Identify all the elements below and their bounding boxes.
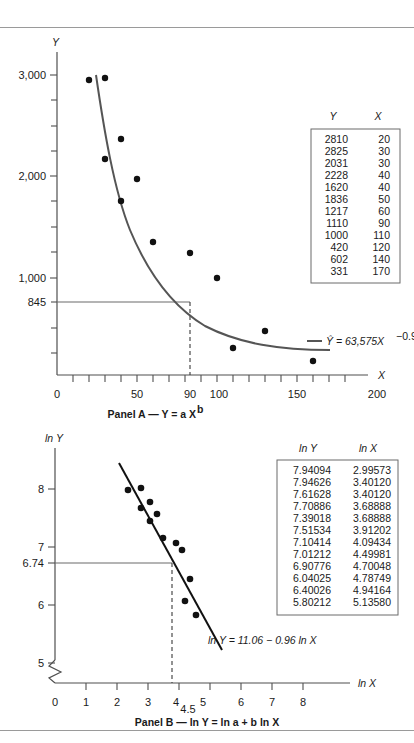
panel-b-caption-text: Panel B — ln Y = ln a + b ln X [135, 716, 279, 728]
table-cell: 420 [330, 241, 348, 253]
panel-a-ytick-3000: 3,000 [18, 69, 46, 81]
panel-a-table-col-y: 2810 2825 2031 2228 1620 1836 1217 1110 … [325, 133, 349, 277]
table-cell: 2825 [325, 145, 349, 157]
panel-b-xtick-6: 6 [238, 696, 244, 708]
panel-a-caption-exponent: b [197, 403, 203, 415]
table-cell: 6.40026 [293, 584, 331, 596]
panel-b-ytick-5: 5 [38, 657, 44, 669]
panel-a-xtick-90: 90 [184, 388, 196, 400]
panel-a-x-ticks [73, 375, 345, 382]
table-cell: 1217 [325, 205, 349, 217]
panel-b-xtick-8: 8 [300, 696, 306, 708]
panel-b-table-header-x: ln X [359, 442, 378, 454]
table-cell: 3.68888 [353, 512, 391, 524]
panel-b-xtick-45: 4.5 [180, 703, 195, 715]
panel-b-xtick-3: 3 [145, 696, 151, 708]
panel-a-equation: Ŷ = 63,575X −0.96 [307, 330, 414, 347]
table-cell: 4.94164 [353, 584, 391, 596]
panel-b-data-points [125, 485, 200, 619]
table-cell: 5.13580 [353, 596, 391, 608]
table-cell: 1836 [325, 193, 349, 205]
panel-a-table-header-y: Y [329, 110, 337, 122]
table-cell: 170 [372, 265, 390, 277]
table-cell: 7.94094 [293, 464, 331, 476]
table-cell: 4.70048 [353, 560, 391, 572]
panel-a-data-table: Y X 2810 2825 2031 2228 1620 1836 1217 1… [311, 110, 400, 283]
table-cell: 30 [378, 157, 390, 169]
table-cell: 50 [378, 193, 390, 205]
panel-a-ytick-1000: 1,000 [18, 272, 46, 284]
table-cell: 7.01212 [293, 548, 331, 560]
panel-a-fitted-curve [96, 75, 330, 350]
table-cell: 6.04025 [293, 572, 331, 584]
panel-a-x-axis-label: X [377, 369, 386, 381]
panel-b-xtick-5: 5 [200, 696, 206, 708]
panel-b-xtick-4: 4 [173, 696, 179, 708]
table-cell: 30 [378, 145, 390, 157]
panel-b-svg: ln Y ln X 8 7 6.74 6 5 0 1 2 3 4 4.5 5 6… [0, 428, 414, 728]
panel-a-equation-text: Ŷ = 63,575X [326, 335, 385, 347]
table-cell: 120 [372, 241, 390, 253]
table-cell: 1000 [325, 229, 349, 241]
panel-a-xtick-0: 0 [54, 388, 60, 400]
panel-b-x-axis-label: ln X [358, 677, 377, 689]
panel-b-table-col-lny: 7.94094 7.94626 7.61628 7.70886 7.39018 … [293, 464, 331, 608]
table-cell: 3.91202 [353, 524, 391, 536]
panel-a-ytick-2000: 2,000 [18, 170, 46, 182]
table-cell: 3.40120 [353, 476, 391, 488]
panel-a-table-header-x: X [373, 110, 382, 122]
table-cell: 4.78749 [353, 572, 391, 584]
table-cell: 7.10414 [293, 536, 331, 548]
table-cell: 110 [373, 229, 390, 241]
table-cell: 7.61628 [293, 488, 331, 500]
panel-a-xtick-100: 100 [210, 388, 228, 400]
panel-b-xtick-0: 0 [52, 696, 58, 708]
panel-b: ln Y ln X 8 7 6.74 6 5 0 1 2 3 4 4.5 5 6… [0, 428, 414, 728]
table-cell: 40 [378, 169, 390, 181]
table-cell: 331 [330, 265, 348, 277]
panel-b-y-axis-label: ln Y [45, 432, 64, 444]
panel-b-y-ticks [48, 489, 55, 663]
panel-b-ytick-674: 6.74 [23, 557, 44, 569]
panel-a-xtick-50: 50 [131, 388, 143, 400]
table-cell: 7.51534 [293, 524, 331, 536]
table-cell: 1110 [326, 217, 348, 229]
panel-b-regression-line [119, 463, 222, 650]
panel-a-y-axis-label: Y [52, 36, 60, 48]
table-cell: 1620 [325, 181, 349, 193]
panel-b-equation-text: ln Y = 11.06 − 0.96 ln X [208, 634, 318, 646]
top-divider-rule [0, 27, 414, 28]
table-cell: 40 [378, 181, 390, 193]
panel-a-caption-text: Panel A — Y = a X [108, 408, 196, 420]
panel-a-caption: Panel A — Y = a X b [108, 403, 204, 420]
panel-b-xtick-1: 1 [83, 696, 89, 708]
panel-b-ytick-7: 7 [38, 541, 44, 553]
table-cell: 7.70886 [293, 500, 331, 512]
bottom-divider-rule [0, 730, 414, 731]
table-cell: 3.40120 [353, 488, 391, 500]
panel-b-ytick-6: 6 [38, 599, 44, 611]
panel-b-table-col-lnx: 2.99573 3.40120 3.40120 3.68888 3.68888 … [353, 464, 391, 608]
panel-a-xtick-200: 200 [368, 388, 386, 400]
table-cell: 3.68888 [353, 500, 391, 512]
panel-b-xtick-2: 2 [114, 696, 120, 708]
table-cell: 2810 [325, 133, 349, 145]
table-cell: 90 [378, 217, 390, 229]
panel-a: Y X 3,000 2,000 1,000 845 0 50 90 100 15… [0, 30, 414, 420]
panel-b-table-header-y: ln Y [299, 442, 318, 454]
panel-a-y-ticks [50, 75, 57, 353]
panel-a-ytick-845: 845 [28, 296, 46, 308]
figure-page: Y X 3,000 2,000 1,000 845 0 50 90 100 15… [0, 0, 414, 743]
panel-b-ytick-8: 8 [38, 483, 44, 495]
table-cell: 7.94626 [293, 476, 331, 488]
table-cell: 60 [378, 205, 390, 217]
table-cell: 2031 [325, 157, 349, 169]
table-cell: 602 [330, 253, 348, 265]
table-cell: 140 [372, 253, 390, 265]
panel-b-data-table: ln Y ln X 7.94094 7.94626 7.61628 7.7088… [277, 442, 398, 615]
table-cell: 6.90776 [293, 560, 331, 572]
panel-b-x-ticks [86, 683, 303, 690]
table-cell: 7.39018 [293, 512, 331, 524]
panel-b-xtick-7: 7 [269, 696, 275, 708]
panel-a-svg: Y X 3,000 2,000 1,000 845 0 50 90 100 15… [0, 30, 414, 420]
